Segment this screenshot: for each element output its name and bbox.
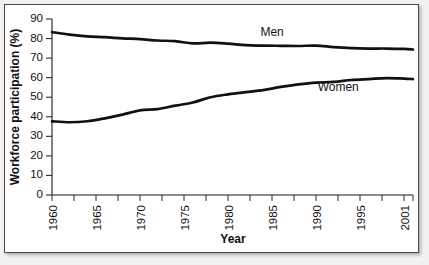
chart-frame: 90 80 70 60 50 40 30 20 10 0 Workforce p… [4,4,419,253]
series-line-women [52,78,413,122]
xtick-label: 1990 [311,205,323,231]
xtick-label: 1960 [47,205,59,231]
xtick-label: 1965 [91,205,103,231]
y-axis-title: Workforce participation (%) [8,29,22,185]
workforce-participation-line-chart: 90 80 70 60 50 40 30 20 10 0 Workforce p… [5,5,417,251]
xtick-label: 1980 [223,205,235,231]
xtick-label: 2001 [399,205,411,231]
ytick-label: 30 [30,129,43,141]
y-axis-ticks [46,19,52,195]
series-label-men: Men [260,25,283,39]
ytick-label: 50 [30,90,43,102]
figure-root: 90 80 70 60 50 40 30 20 10 0 Workforce p… [0,0,429,265]
ytick-label: 40 [30,110,43,122]
x-axis-title: Year [220,232,246,246]
series-label-women: Women [318,80,359,94]
ytick-label: 80 [30,32,43,44]
series-line-men [52,32,413,49]
ytick-label: 20 [30,149,43,161]
ytick-label: 90 [30,12,43,24]
ytick-label: 10 [30,168,43,180]
xtick-label: 1970 [135,205,147,231]
xtick-label: 1975 [179,205,191,231]
x-axis-minor-ticks [52,195,413,201]
xtick-label: 1985 [267,205,279,231]
ytick-label: 0 [37,188,43,200]
x-axis-tick-labels: 1960 1965 1970 1975 1980 1985 1990 1995 … [47,205,411,231]
ytick-label: 60 [30,71,43,83]
xtick-label: 1995 [355,205,367,231]
ytick-label: 70 [30,51,43,63]
y-axis-tick-labels: 90 80 70 60 50 40 30 20 10 0 [30,12,43,200]
